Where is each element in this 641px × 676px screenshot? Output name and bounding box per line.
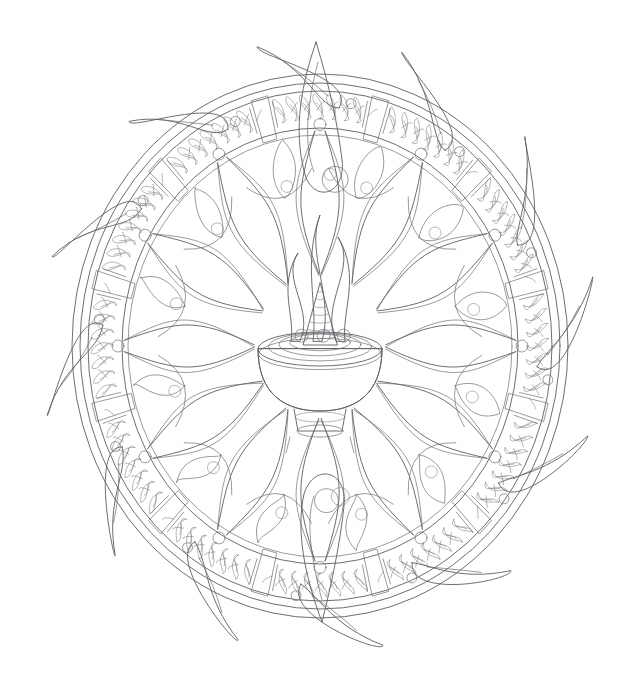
coloring-page-canvas — [0, 0, 641, 676]
mandala-illustration — [0, 0, 641, 676]
